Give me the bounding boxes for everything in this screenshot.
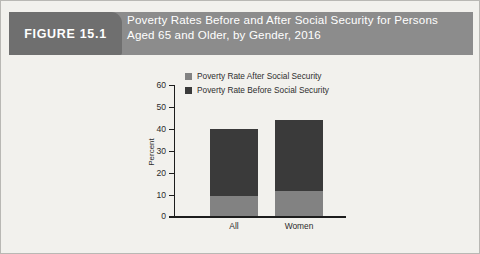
y-axis-line	[174, 85, 175, 218]
figure-title: Poverty Rates Before and After Social Se…	[127, 13, 467, 42]
y-tick: 0	[169, 216, 174, 217]
legend-item-after: Poverty Rate After Social Security	[185, 70, 329, 82]
bar-segment-after-social-security	[275, 191, 323, 216]
x-axis-label-women: Women	[285, 221, 314, 231]
figure-number-tab: FIGURE 15.1	[9, 12, 122, 55]
bar-segment-after-social-security	[210, 196, 258, 217]
y-tick-label: 40	[156, 124, 166, 134]
bar-all	[210, 129, 258, 217]
y-tick: 50	[169, 107, 174, 108]
legend-label-after: Poverty Rate After Social Security	[197, 71, 322, 81]
y-tick: 40	[169, 129, 174, 130]
y-tick: 10	[169, 195, 174, 196]
y-tick-label: 10	[156, 190, 166, 200]
y-tick-label: 60	[156, 80, 166, 90]
x-axis-label-all: All	[229, 221, 238, 231]
legend-swatch-after-icon	[185, 73, 192, 80]
y-tick-label: 50	[156, 102, 166, 112]
y-tick: 20	[169, 173, 174, 174]
figure-number-label: FIGURE 15.1	[9, 12, 122, 55]
figure-container: FIGURE 15.1 Poverty Rates Before and Aft…	[0, 0, 480, 254]
figure-title-line-2: Aged 65 and Older, by Gender, 2016	[127, 28, 467, 43]
y-axis-title: Percent	[147, 138, 156, 166]
figure-title-line-1: Poverty Rates Before and After Social Se…	[127, 13, 467, 28]
y-tick-label: 20	[156, 168, 166, 178]
y-tick-label: 30	[156, 146, 166, 156]
x-axis-line	[174, 216, 346, 218]
y-tick-label: 0	[161, 211, 166, 221]
chart-area: Poverty Rate After Social Security Pover…	[1, 55, 480, 254]
y-tick: 60	[169, 85, 174, 86]
y-tick: 30	[169, 151, 174, 152]
bar-women	[275, 120, 323, 216]
plot-region: Percent 0102030405060 AllWomen	[174, 85, 346, 218]
